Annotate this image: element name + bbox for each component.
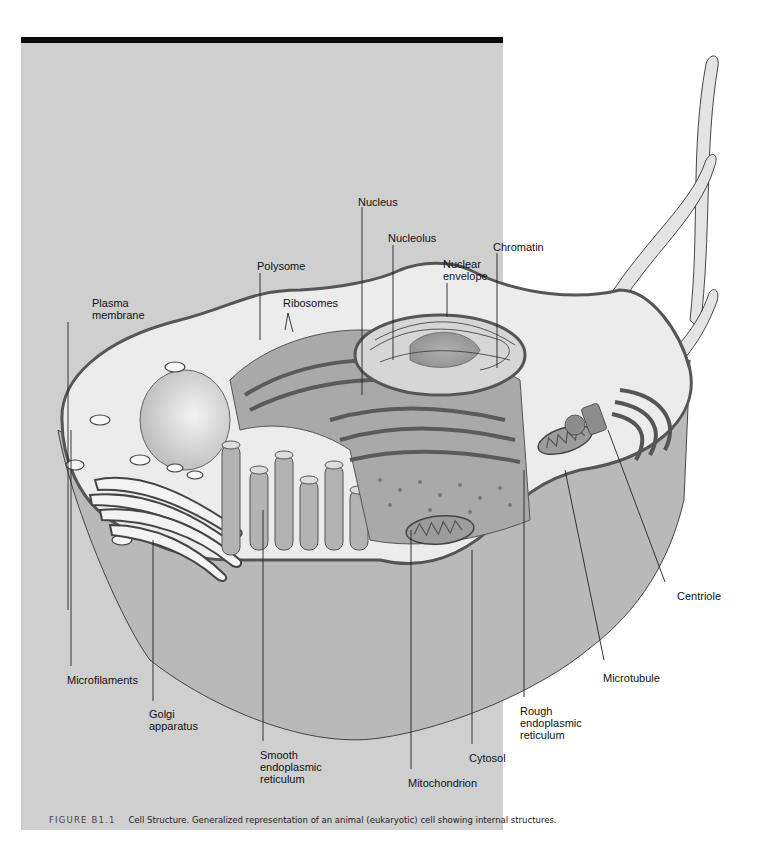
label-chromatin: Chromatin	[493, 241, 544, 253]
label-plasma-membrane: Plasma membrane	[92, 297, 145, 321]
label-microfilaments: Microfilaments	[67, 674, 138, 686]
label-nucleolus: Nucleolus	[388, 232, 436, 244]
cell-diagram	[0, 0, 763, 861]
label-microtubule: Microtubule	[603, 672, 660, 684]
figure-caption-text: Cell Structure. Generalized representati…	[128, 815, 556, 825]
label-ribosomes: Ribosomes	[283, 297, 338, 309]
label-centriole: Centriole	[677, 590, 721, 602]
figure-number: FIGURE B1.1	[49, 815, 116, 825]
label-polysome: Polysome	[257, 260, 305, 272]
label-smooth-er: Smooth endoplasmic reticulum	[260, 749, 322, 785]
vacuole	[140, 370, 230, 470]
label-rough-er: Rough endoplasmic reticulum	[520, 705, 582, 741]
label-nucleus: Nucleus	[358, 196, 398, 208]
nucleus	[355, 315, 525, 395]
figure-caption: FIGURE B1.1 Cell Structure. Generalized …	[49, 815, 557, 825]
label-nuclear-envelope: Nuclear envelope	[443, 258, 488, 282]
label-mitochondrion: Mitochondrion	[408, 777, 477, 789]
label-golgi-apparatus: Golgi apparatus	[149, 708, 198, 732]
label-cytosol: Cytosol	[469, 752, 506, 764]
